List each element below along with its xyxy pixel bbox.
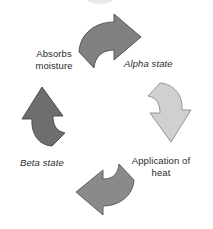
left-arrow-up (22, 87, 65, 146)
label-beta-state: Beta state (20, 157, 98, 169)
right-arrow-down (148, 83, 191, 142)
label-alpha-state: Alpha state (124, 58, 204, 70)
cycle-arrows-graphic (0, 0, 213, 229)
cycle-diagram: Absorbs moisture Alpha state Application… (0, 0, 213, 229)
label-application-of-heat: Application of heat (118, 155, 204, 178)
label-absorbs-moisture: Absorbs moisture (18, 48, 90, 71)
